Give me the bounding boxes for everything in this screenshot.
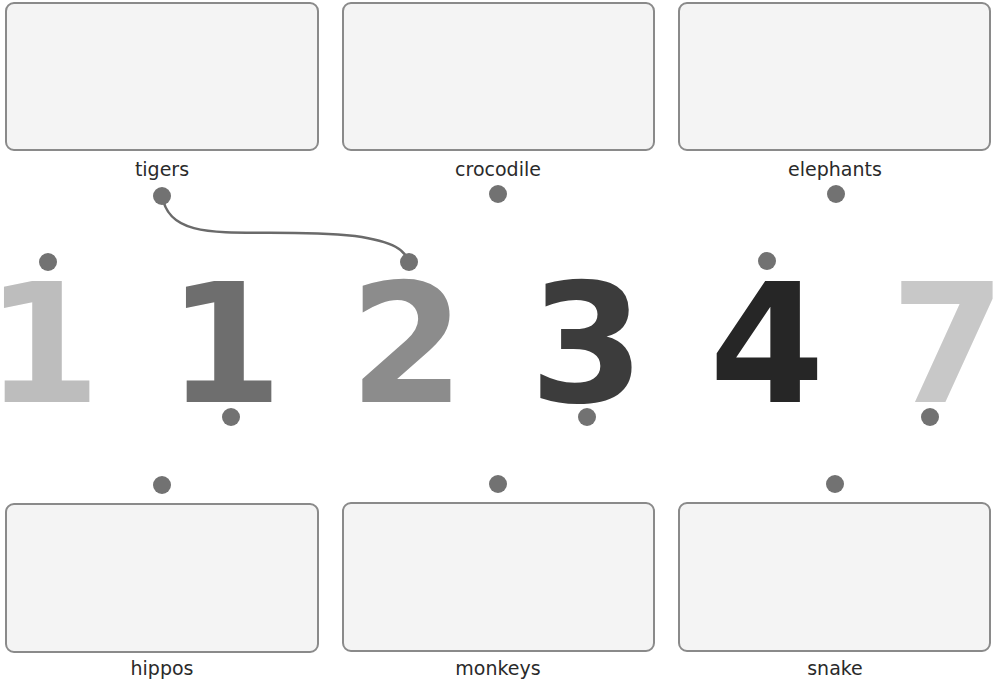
number-1-light: 1 [0,262,103,428]
connector-dot-number-2[interactable] [400,253,418,271]
card-label-crocodile: crocodile [398,158,598,180]
connector-dot-snake[interactable] [826,475,844,493]
card-elephants-image [678,2,991,151]
card-snake-image [678,502,991,652]
card-label-elephants: elephants [735,158,935,180]
number-3: 3 [527,262,647,428]
card-monkeys-image [342,502,655,652]
connector-dot-tigers[interactable] [153,187,171,205]
connector-dot-monkeys[interactable] [489,475,507,493]
card-label-tigers: tigers [62,158,262,180]
card-label-monkeys: monkeys [398,657,598,679]
connector-dot-number-1-medium[interactable] [222,408,240,426]
number-4: 4 [707,262,827,428]
number-1-medium: 1 [165,262,285,428]
number-2: 2 [347,262,467,428]
card-crocodile-image [342,2,655,151]
connector-dot-crocodile[interactable] [489,185,507,203]
card-hippos-image [5,503,319,653]
connector-dot-number-7[interactable] [921,408,939,426]
connector-dot-number-1-light[interactable] [39,253,57,271]
number-7: 7 [888,262,997,428]
card-label-hippos: hippos [62,657,262,679]
card-label-snake: snake [735,657,935,679]
connector-dot-number-3[interactable] [578,408,596,426]
card-tigers-image [5,2,319,151]
connector-dot-hippos[interactable] [153,476,171,494]
connector-dot-number-4[interactable] [758,252,776,270]
connector-dot-elephants[interactable] [827,185,845,203]
